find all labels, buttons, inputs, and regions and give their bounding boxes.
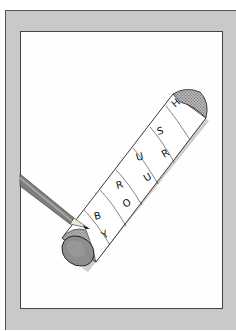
tube-illustration: B R U S H Y O U R <box>0 0 236 331</box>
